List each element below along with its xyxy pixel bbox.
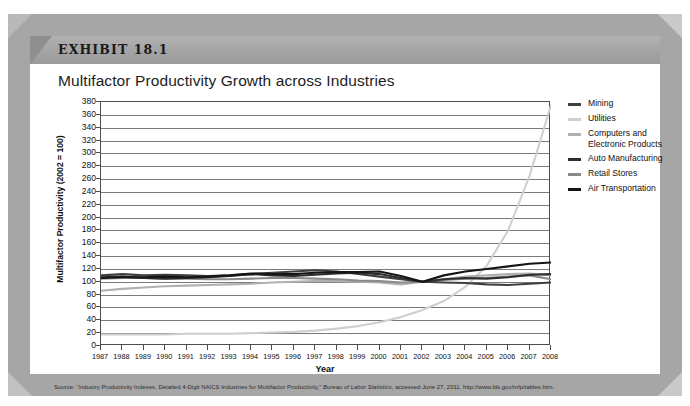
legend-item[interactable]: Air Transportation (568, 183, 656, 194)
x-tick-mark (271, 345, 272, 350)
y-tick-label: 260 (82, 173, 96, 183)
legend-item[interactable]: Computers and Electronic Products (568, 128, 662, 150)
x-tick-mark (443, 345, 444, 350)
legend-item[interactable]: Mining (568, 98, 613, 109)
y-tick-label: 240 (82, 186, 96, 196)
x-tick-mark (186, 345, 187, 350)
x-tick-mark (464, 345, 465, 350)
x-tick-mark (421, 345, 422, 350)
x-tick-label: 2008 (542, 352, 558, 361)
x-tick-mark (293, 345, 294, 350)
y-tick-label: 280 (82, 160, 96, 170)
x-tick-mark (164, 345, 165, 350)
legend-item[interactable]: Utilities (568, 113, 616, 124)
y-tick-label: 200 (82, 212, 96, 222)
legend-swatch-auto (568, 158, 581, 161)
legend-swatch-utilities (568, 118, 581, 121)
banner-corner-fold (30, 36, 52, 64)
x-tick-label: 1992 (199, 352, 215, 361)
x-tick-label: 1999 (349, 352, 365, 361)
y-tick-label: 300 (82, 147, 96, 157)
x-tick-mark (100, 345, 101, 350)
x-tick-label: 2007 (520, 352, 536, 361)
x-tick-label: 2004 (456, 352, 472, 361)
x-tick-label: 1988 (113, 352, 129, 361)
exhibit-banner: EXHIBIT 18.1 (30, 36, 660, 64)
y-tick-label: 100 (82, 276, 96, 286)
legend-item[interactable]: Retail Stores (568, 168, 637, 179)
y-tick-label: 120 (82, 263, 96, 273)
x-tick-label: 1991 (178, 352, 194, 361)
x-tick-mark (336, 345, 337, 350)
y-tick-label: 360 (82, 109, 96, 119)
y-tick-label: 180 (82, 224, 96, 234)
x-tick-mark (207, 345, 208, 350)
plot-frame (100, 101, 550, 345)
y-axis-tick-labels: 0204060801001201401601802002202402602803… (30, 92, 100, 354)
legend-label: Computers and Electronic Products (588, 128, 662, 150)
y-tick-label: 40 (87, 314, 96, 324)
legend-swatch-air (568, 188, 581, 191)
y-tick-label: 80 (87, 289, 96, 299)
x-tick-label: 1997 (306, 352, 322, 361)
exhibit-label: EXHIBIT 18.1 (58, 42, 169, 57)
chart-title: Multifactor Productivity Growth across I… (58, 72, 395, 90)
series-lines (101, 102, 551, 346)
x-tick-mark (486, 345, 487, 350)
y-tick-label: 340 (82, 122, 96, 132)
x-tick-mark (507, 345, 508, 350)
x-tick-label: 1993 (220, 352, 236, 361)
x-tick-mark (400, 345, 401, 350)
source-note: Source: “Industry Productivity Indexes, … (54, 384, 664, 390)
legend-label: Mining (588, 98, 613, 109)
x-tick-label: 2000 (370, 352, 386, 361)
chart-plot-area: Multifactor Productivity (2002 = 100) 02… (30, 92, 660, 374)
y-tick-label: 140 (82, 250, 96, 260)
x-tick-label: 1996 (285, 352, 301, 361)
x-tick-label: 1989 (135, 352, 151, 361)
x-tick-mark (357, 345, 358, 350)
x-tick-mark (229, 345, 230, 350)
exhibit-card: EXHIBIT 18.1 Multifactor Productivity Gr… (30, 36, 660, 374)
x-tick-mark (314, 345, 315, 350)
x-tick-label: 2006 (499, 352, 515, 361)
x-tick-label: 1990 (156, 352, 172, 361)
series-line (101, 105, 551, 334)
x-tick-label: 1998 (328, 352, 344, 361)
x-tick-mark (529, 345, 530, 350)
y-tick-label: 60 (87, 301, 96, 311)
x-tick-mark (250, 345, 251, 350)
x-tick-mark (379, 345, 380, 350)
y-tick-label: 320 (82, 135, 96, 145)
legend-item[interactable]: Auto Manufacturing (568, 153, 663, 164)
x-tick-label: 2002 (413, 352, 429, 361)
y-tick-label: 380 (82, 96, 96, 106)
source-publication: Bureau of Labor Statistics (323, 384, 392, 390)
x-tick-label: 2003 (435, 352, 451, 361)
x-tick-label: 1995 (263, 352, 279, 361)
x-tick-mark (121, 345, 122, 350)
legend-label: Auto Manufacturing (588, 153, 663, 164)
x-tick-label: 1987 (92, 352, 108, 361)
legend-label: Utilities (588, 113, 616, 124)
legend-swatch-mining (568, 103, 581, 106)
y-tick-label: 160 (82, 237, 96, 247)
y-tick-label: 220 (82, 199, 96, 209)
y-tick-label: 20 (87, 327, 96, 337)
x-tick-mark (550, 345, 551, 350)
x-tick-label: 2001 (392, 352, 408, 361)
x-tick-label: 2005 (478, 352, 494, 361)
x-tick-mark (143, 345, 144, 350)
x-axis-title: Year (100, 364, 550, 374)
x-tick-label: 1994 (242, 352, 258, 361)
legend-label: Air Transportation (588, 183, 656, 194)
legend-swatch-retail (568, 173, 581, 176)
legend-label: Retail Stores (588, 168, 637, 179)
exhibit-frame: EXHIBIT 18.1 Multifactor Productivity Gr… (8, 14, 682, 396)
legend-swatch-computers (568, 133, 581, 136)
